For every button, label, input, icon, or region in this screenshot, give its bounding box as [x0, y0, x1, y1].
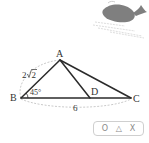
answer-triangle-button[interactable]: △: [116, 125, 122, 133]
ab-length-label: 2 2: [22, 70, 37, 81]
svg-text:2: 2: [22, 70, 27, 80]
segment-ad: [60, 60, 90, 98]
vertex-d-label: D: [91, 86, 98, 97]
answer-x-button[interactable]: X: [130, 125, 135, 133]
vertex-b-label: B: [10, 92, 17, 103]
answer-o-button[interactable]: O: [102, 125, 108, 133]
whale-icon: [93, 1, 147, 38]
bc-length-label: 6: [73, 103, 78, 113]
answer-choice-box: O △ X: [93, 121, 144, 136]
vertex-c-label: C: [133, 93, 140, 104]
svg-text:2: 2: [32, 70, 37, 80]
angle-b-label: 45°: [30, 88, 41, 97]
vertex-a-label: A: [56, 48, 64, 59]
